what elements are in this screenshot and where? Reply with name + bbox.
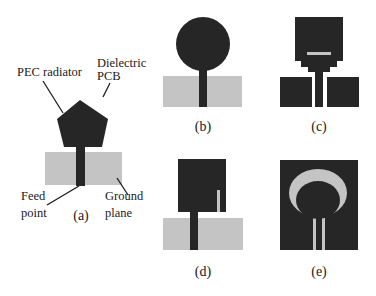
pec-radiator-label: PEC radiator xyxy=(17,65,83,79)
radiator-slot xyxy=(307,52,331,55)
panel-e-caption: (e) xyxy=(311,264,327,280)
feed-line xyxy=(190,210,198,250)
panel-d-caption: (d) xyxy=(195,264,212,280)
ground-left xyxy=(280,77,312,107)
ground-right xyxy=(327,77,359,107)
feed-line xyxy=(199,68,207,107)
feed-line xyxy=(76,145,85,186)
feed-line xyxy=(316,212,322,250)
circular-radiator xyxy=(176,17,230,71)
radiator-slot xyxy=(217,190,220,212)
feed-line xyxy=(315,71,323,107)
dielectric-label-line1: Dielectric xyxy=(97,56,147,70)
dielectric-label-line2: PCB xyxy=(97,69,121,83)
panel-a-caption: (a) xyxy=(73,208,89,224)
feed-label-line2: point xyxy=(21,206,47,220)
radiator-step-1 xyxy=(301,60,337,67)
antenna-figure: PEC radiator Dielectric PCB Feed point G… xyxy=(0,0,376,296)
panel-c-caption: (c) xyxy=(311,119,327,135)
ground-label-line2: plane xyxy=(105,206,133,220)
ground-plane xyxy=(163,218,243,250)
panel-b-caption: (b) xyxy=(195,119,212,135)
feed-label-line1: Feed xyxy=(21,189,46,203)
ground-label-line1: Ground xyxy=(105,189,144,203)
